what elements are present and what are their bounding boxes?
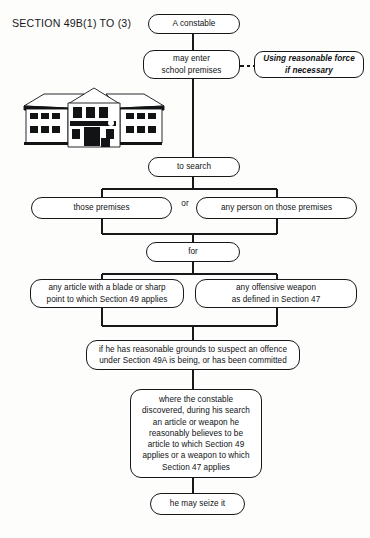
node-constable-label: A constable bbox=[153, 18, 235, 29]
node-offensive-weapon-label: any offensive weapon as defined in Secti… bbox=[200, 282, 352, 305]
node-reasonable-force[interactable]: Using reasonable force if necessary bbox=[254, 51, 364, 78]
node-reasonable-force-label: Using reasonable force if necessary bbox=[259, 53, 359, 76]
node-to-search[interactable]: to search bbox=[148, 157, 240, 177]
node-those-premises-label: those premises bbox=[36, 202, 167, 213]
or-separator-label: or bbox=[176, 199, 194, 208]
node-may-enter-label: may enter school premises bbox=[148, 53, 235, 76]
node-for[interactable]: for bbox=[146, 242, 240, 262]
page-title: SECTION 49B(1) TO (3) bbox=[12, 17, 131, 29]
node-seize[interactable]: he may seize it bbox=[150, 493, 245, 515]
school-building-illustration bbox=[22, 86, 166, 150]
node-reasonable-grounds[interactable]: if he has reasonable grounds to suspect … bbox=[86, 340, 300, 370]
node-where-discovered[interactable]: where the constable discovered, during h… bbox=[130, 389, 262, 478]
node-blade-article-label: any article with a blade or sharp point … bbox=[35, 282, 179, 305]
node-constable[interactable]: A constable bbox=[148, 14, 240, 34]
node-for-label: for bbox=[151, 246, 235, 257]
node-where-discovered-label: where the constable discovered, during h… bbox=[135, 394, 257, 473]
node-those-premises[interactable]: those premises bbox=[31, 197, 172, 219]
node-to-search-label: to search bbox=[153, 161, 235, 172]
node-blade-article[interactable]: any article with a blade or sharp point … bbox=[30, 279, 184, 308]
node-any-person[interactable]: any person on those premises bbox=[196, 197, 357, 219]
flowchart-diagram: SECTION 49B(1) TO (3) bbox=[0, 0, 370, 538]
node-seize-label: he may seize it bbox=[155, 498, 240, 509]
node-may-enter[interactable]: may enter school premises bbox=[143, 50, 240, 79]
node-any-person-label: any person on those premises bbox=[201, 202, 352, 213]
node-reasonable-grounds-label: if he has reasonable grounds to suspect … bbox=[91, 344, 295, 367]
node-offensive-weapon[interactable]: any offensive weapon as defined in Secti… bbox=[195, 279, 357, 308]
